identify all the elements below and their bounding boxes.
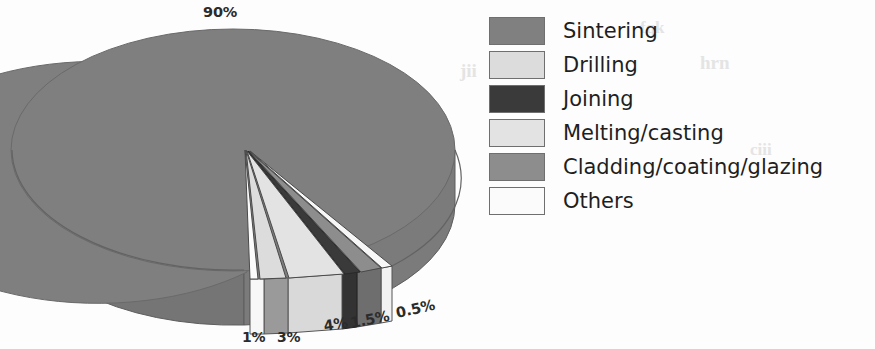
pie-label-joining: 3%: [277, 329, 300, 345]
legend-swatch-joining: [489, 85, 545, 113]
legend-swatch-sintering: [489, 17, 545, 45]
drilling-side-wall: [264, 278, 288, 334]
legend-item-joining[interactable]: Joining: [489, 82, 875, 116]
legend-label-sintering: Sintering: [563, 21, 658, 42]
legend-swatch-others: [489, 187, 545, 215]
pie-chart-screenshot: fqk hrn jii ciii: [0, 0, 875, 349]
chart-legend: Sintering Drilling Joining Melting/casti…: [489, 14, 875, 218]
pie-svg: [0, 0, 470, 349]
legend-label-drilling: Drilling: [563, 55, 638, 76]
legend-label-cladding-coating-glazing: Cladding/coating/glazing: [563, 157, 823, 178]
legend-swatch-melting-casting: [489, 119, 545, 147]
legend-item-sintering[interactable]: Sintering: [489, 14, 875, 48]
legend-label-joining: Joining: [563, 89, 634, 110]
pie-label-sintering: 90%: [203, 4, 237, 20]
legend-label-melting-casting: Melting/casting: [563, 123, 724, 144]
legend-item-cladding-coating-glazing[interactable]: Cladding/coating/glazing: [489, 150, 875, 184]
legend-item-others[interactable]: Others: [489, 184, 875, 218]
legend-item-melting-casting[interactable]: Melting/casting: [489, 116, 875, 150]
pie-chart-graphic: [0, 0, 470, 349]
pie-label-drilling: 1%: [242, 329, 265, 345]
others-sliver-side-wall: [250, 279, 264, 334]
legend-swatch-drilling: [489, 51, 545, 79]
legend-label-others: Others: [563, 191, 634, 212]
legend-item-drilling[interactable]: Drilling: [489, 48, 875, 82]
legend-swatch-cladding-coating-glazing: [489, 153, 545, 181]
